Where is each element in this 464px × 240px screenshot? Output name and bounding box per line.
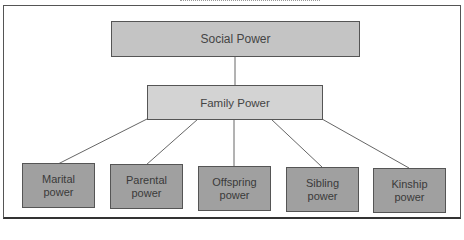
- connector-sibling: [271, 119, 322, 167]
- connector-marital: [58, 119, 147, 164]
- node-label-line2: power: [44, 186, 74, 198]
- node-label-line2: power: [395, 191, 425, 203]
- node-label-line1: Parental: [126, 174, 167, 186]
- sibling-power-node: Siblingpower: [286, 167, 359, 212]
- social-power-node: Social Power: [111, 21, 360, 57]
- node-label-line2: power: [308, 190, 338, 202]
- family-power-node: Family Power: [147, 85, 323, 120]
- node-label-line1: Offspring: [212, 176, 256, 188]
- node-label: Family Power: [200, 97, 270, 109]
- node-label-line1: Sibling: [306, 177, 339, 189]
- marital-power-node: Maritalpower: [22, 163, 95, 208]
- node-label: Social Power: [200, 32, 270, 46]
- node-label-line1: Marital: [42, 173, 75, 185]
- node-label-line2: power: [220, 189, 250, 201]
- parental-power-node: Parentalpower: [110, 164, 183, 209]
- connector-parental: [146, 119, 198, 165]
- node-label-line2: power: [132, 187, 162, 199]
- kinship-power-node: Kinshippower: [373, 168, 446, 213]
- offspring-power-node: Offspringpower: [198, 166, 271, 211]
- node-label-line1: Kinship: [391, 178, 427, 190]
- connector-kinship: [322, 119, 409, 168]
